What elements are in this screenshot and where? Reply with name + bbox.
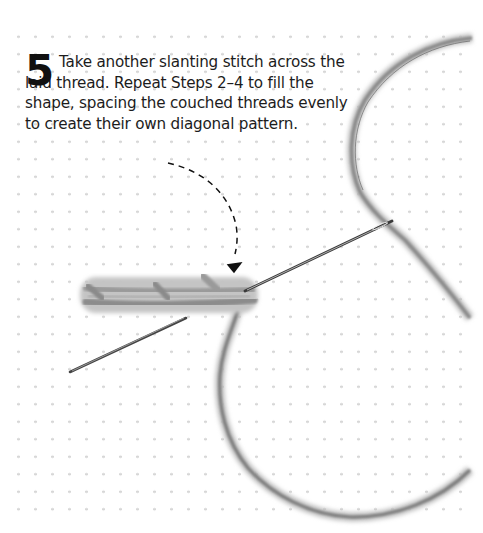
working-thread-lower [220, 310, 470, 517]
step-number: 5 [25, 50, 53, 92]
working-thread-upper [352, 38, 472, 318]
step-text: Take another slanting stitch across the … [25, 52, 355, 134]
step-instruction: 5 Take another slanting stitch across th… [25, 52, 355, 134]
instruction-page: 5 Take another slanting stitch across th… [0, 0, 483, 533]
laid-thread-bundle [80, 276, 258, 313]
dashed-pointer-arrow [168, 163, 244, 274]
